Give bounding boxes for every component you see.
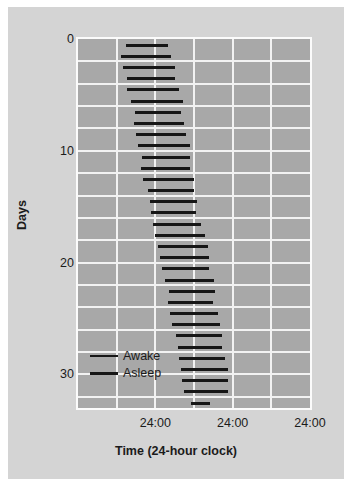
legend-item: Asleep [90,365,210,382]
legend-swatch-awake [90,355,118,357]
horizontal-gridline [78,284,310,286]
actogram-bar [127,88,180,91]
horizontal-gridline [78,239,310,241]
x-axis-tick-label: 24:00 [275,416,345,430]
legend-label: Awake [123,348,160,364]
actogram-bar [165,279,214,282]
chart-legend: AwakeAsleep [90,348,210,382]
legend-swatch-asleep [90,372,118,375]
actogram-bar [138,144,190,147]
actogram-bar [127,77,176,80]
horizontal-gridline [78,150,310,152]
horizontal-gridline [78,217,310,219]
actogram-bar [162,267,209,270]
actogram-bar [168,301,213,304]
actogram-bar [191,402,210,405]
horizontal-gridline [78,329,310,331]
horizontal-gridline [78,105,310,107]
horizontal-gridline [78,262,310,264]
actogram-bar [141,167,190,170]
horizontal-gridline [78,60,310,62]
horizontal-gridline [78,306,310,308]
y-axis-tick-label: 30 [34,368,74,381]
actogram-bar [148,189,194,192]
actogram-bar [123,66,175,69]
actogram-bar [170,312,218,315]
actogram-bar [184,390,227,393]
x-axis-tick-label: 24:00 [198,416,268,430]
y-axis-title: Days [15,185,29,245]
y-axis-ticks: 0102030 [28,0,74,486]
actogram-figure: 0102030 Days Time (24-hour clock) AwakeA… [0,0,352,486]
actogram-bar [169,290,215,293]
horizontal-gridline [78,396,310,398]
legend-label: Asleep [123,365,161,381]
actogram-bar [134,122,184,125]
actogram-bar [126,44,169,47]
actogram-bar [176,334,222,337]
actogram-bar [121,55,171,58]
y-axis-tick-label: 0 [34,33,74,46]
horizontal-gridline [78,127,310,129]
actogram-bar [135,111,181,114]
actogram-bar [155,234,205,237]
actogram-bar [131,100,183,103]
horizontal-gridline [78,195,310,197]
y-axis-tick-label: 10 [34,145,74,158]
horizontal-gridline [78,83,310,85]
x-axis-title: Time (24-hour clock) [0,444,352,458]
actogram-bar [172,323,220,326]
horizontal-gridline [78,172,310,174]
actogram-bar [158,245,208,248]
x-axis-tick-label: 24:00 [120,416,190,430]
actogram-bar [136,133,187,136]
actogram-bar [150,200,198,203]
actogram-bar [151,211,195,214]
actogram-bar [153,223,201,226]
actogram-bar [143,178,194,181]
actogram-bar [160,256,209,259]
actogram-bar [142,156,190,159]
legend-item: Awake [90,348,210,365]
y-axis-tick-label: 20 [34,257,74,270]
